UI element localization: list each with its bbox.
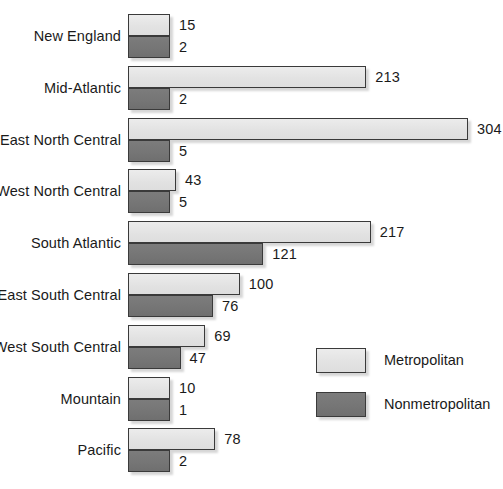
bar-group: New England152: [0, 14, 503, 58]
category-label: West South Central: [0, 340, 121, 355]
bar-metropolitan: 69: [128, 325, 468, 347]
bar-value-nonmetropolitan: 5: [179, 195, 187, 210]
bar-rect-nonmetropolitan: [128, 191, 170, 213]
bar-metropolitan: 100: [128, 273, 468, 295]
legend-label-metropolitan: Metropolitan: [384, 352, 464, 369]
bar-group: East North Central3045: [0, 118, 503, 162]
bar-value-metropolitan: 43: [185, 173, 202, 188]
bar-value-nonmetropolitan: 2: [179, 454, 187, 469]
bar-rect-metropolitan: [128, 428, 215, 450]
bar-rect-nonmetropolitan: [128, 36, 170, 58]
bar-value-metropolitan: 69: [214, 329, 231, 344]
category-label: East North Central: [0, 133, 121, 148]
bar-nonmetropolitan: 121: [128, 243, 468, 265]
bar-nonmetropolitan: 2: [128, 88, 468, 110]
bar-nonmetropolitan: 76: [128, 295, 468, 317]
bar-chart: New England152Mid-Atlantic2132East North…: [0, 0, 503, 489]
bar-group: West North Central435: [0, 169, 503, 213]
bar-group: East South Central10076: [0, 273, 503, 317]
bar-value-metropolitan: 213: [375, 70, 400, 85]
category-label: Pacific: [0, 443, 121, 458]
bar-group: South Atlantic217121: [0, 221, 503, 265]
bar-rect-nonmetropolitan: [128, 399, 170, 421]
bar-rect-metropolitan: [128, 377, 170, 399]
category-label: Mid-Atlantic: [0, 81, 121, 96]
bar-rect-metropolitan: [128, 169, 176, 191]
bar-rect-metropolitan: [128, 221, 371, 243]
bar-rect-nonmetropolitan: [128, 450, 170, 472]
bar-rect-metropolitan: [128, 66, 366, 88]
bar-nonmetropolitan: 2: [128, 36, 468, 58]
bar-value-metropolitan: 10: [179, 380, 196, 395]
bar-rect-nonmetropolitan: [128, 140, 170, 162]
bar-rect-nonmetropolitan: [128, 243, 263, 265]
bar-rect-nonmetropolitan: [128, 347, 181, 369]
bar-value-nonmetropolitan: 76: [222, 299, 239, 314]
legend-label-nonmetropolitan: Nonmetropolitan: [384, 396, 490, 413]
bar-metropolitan: 43: [128, 169, 468, 191]
category-label: East South Central: [0, 288, 121, 303]
category-label: South Atlantic: [0, 236, 121, 251]
legend-item-metropolitan: Metropolitan: [316, 348, 496, 378]
bar-value-nonmetropolitan: 47: [190, 351, 207, 366]
bar-value-nonmetropolitan: 2: [179, 92, 187, 107]
bar-value-nonmetropolitan: 1: [179, 402, 187, 417]
bar-value-metropolitan: 217: [380, 225, 405, 240]
bar-rect-nonmetropolitan: [128, 295, 213, 317]
legend-item-nonmetropolitan: Nonmetropolitan: [316, 392, 496, 422]
bar-nonmetropolitan: 2: [128, 450, 468, 472]
bar-metropolitan: 213: [128, 66, 468, 88]
bar-nonmetropolitan: 5: [128, 191, 468, 213]
bar-value-metropolitan: 304: [477, 121, 502, 136]
bar-rect-metropolitan: [128, 325, 205, 347]
bar-value-metropolitan: 100: [249, 277, 274, 292]
chart-legend: Metropolitan Nonmetropolitan: [316, 348, 496, 436]
bar-rect-nonmetropolitan: [128, 88, 170, 110]
bar-metropolitan: 15: [128, 14, 468, 36]
category-label: West North Central: [0, 184, 121, 199]
category-label: New England: [0, 29, 121, 44]
category-label: Mountain: [0, 392, 121, 407]
legend-swatch-nonmetropolitan: [316, 392, 366, 417]
bar-metropolitan: 217: [128, 221, 468, 243]
bar-metropolitan: 304: [128, 118, 468, 140]
bar-value-nonmetropolitan: 2: [179, 40, 187, 55]
bar-value-metropolitan: 78: [224, 432, 241, 447]
bar-rect-metropolitan: [128, 273, 240, 295]
bar-rect-metropolitan: [128, 14, 170, 36]
bar-nonmetropolitan: 5: [128, 140, 468, 162]
bar-group: Mid-Atlantic2132: [0, 66, 503, 110]
bar-value-metropolitan: 15: [179, 18, 196, 33]
bar-value-nonmetropolitan: 121: [272, 247, 297, 262]
bar-value-nonmetropolitan: 5: [179, 143, 187, 158]
legend-swatch-metropolitan: [316, 348, 366, 373]
bar-rect-metropolitan: [128, 118, 468, 140]
